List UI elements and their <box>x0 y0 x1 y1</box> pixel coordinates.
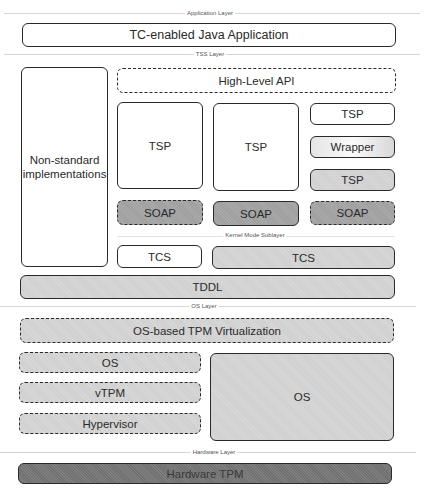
application-layer-label: Application Layer <box>185 9 235 17</box>
soap-box-2: SOAP <box>213 201 299 226</box>
os-tpm-virtualization-box: OS-based TPM Virtualization <box>20 318 394 343</box>
tsp-box-3: TSP <box>310 103 395 125</box>
hardware-layer-label: Hardware Layer <box>191 448 238 456</box>
non-standard-implementations-box: Non-standard implementations <box>21 67 108 267</box>
soap-box-1: SOAP <box>117 200 203 225</box>
kernel-sublayer-label: Kernel Mode Sublayer <box>223 231 286 239</box>
vtpm-box: vTPM <box>19 382 201 403</box>
tsp-box-gray: TSP <box>310 169 395 191</box>
os-layer-label: OS Layer <box>189 302 218 310</box>
hypervisor-box: Hypervisor <box>19 413 201 434</box>
wrapper-box: Wrapper <box>310 136 395 158</box>
guest-os-box: OS <box>19 352 201 373</box>
java-application-box: TC-enabled Java Application <box>22 23 396 47</box>
tss-layer-label: TSS Layer <box>194 50 226 58</box>
tcs-box-white: TCS <box>117 245 202 268</box>
hardware-tpm-box: Hardware TPM <box>18 463 392 484</box>
high-level-api-box: High-Level API <box>117 68 396 93</box>
native-os-box: OS <box>210 353 394 441</box>
tsp-box-1: TSP <box>117 102 203 189</box>
soap-box-3: SOAP <box>310 201 395 225</box>
tddl-box: TDDL <box>20 275 395 299</box>
tcs-box-gray: TCS <box>212 246 395 269</box>
tsp-box-2: TSP <box>213 103 299 191</box>
